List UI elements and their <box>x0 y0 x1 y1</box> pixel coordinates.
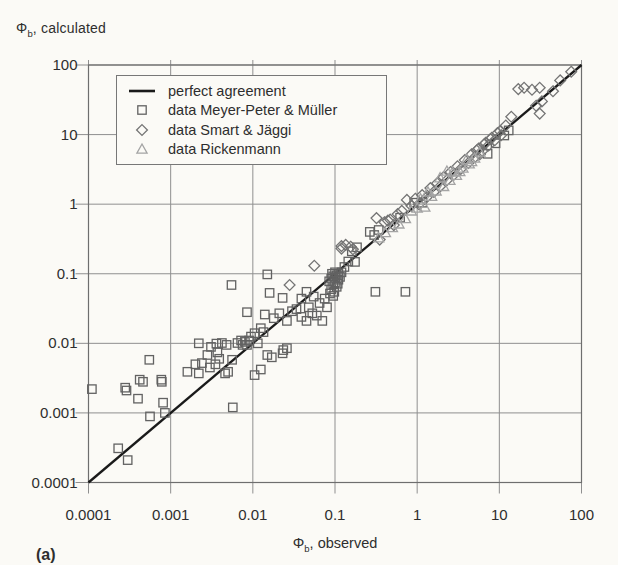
x-tick-label: 10 <box>491 506 508 523</box>
x-tick-label: 100 <box>569 506 594 523</box>
square-marker <box>195 369 203 377</box>
x-tick-label: 0.001 <box>152 506 190 523</box>
x-axis-title-text: , observed <box>310 535 378 551</box>
square-marker <box>305 303 313 311</box>
square-marker <box>278 294 286 302</box>
line-sample-icon <box>125 84 159 98</box>
x-tick-label: 1 <box>413 506 421 523</box>
square-marker <box>229 403 237 411</box>
diamond-marker <box>534 108 545 119</box>
x-tick-label: 0.1 <box>325 506 346 523</box>
square-marker <box>145 356 153 364</box>
legend-label: data Meyer-Peter & Müller <box>168 102 337 118</box>
y-tick-label: 0.0001 <box>32 474 78 491</box>
square-marker <box>261 310 269 318</box>
square-marker <box>318 317 326 325</box>
diamond-marker <box>137 124 148 135</box>
legend-item-meyer-peter-muller: data Meyer-Peter & Müller <box>125 101 386 120</box>
legend-item-rickenmann: data Rickenmann <box>125 140 386 159</box>
square-marker <box>136 376 144 384</box>
triangle-marker <box>137 144 147 153</box>
diamond-marker-icon <box>125 123 159 137</box>
legend-label: perfect agreement <box>168 83 286 99</box>
square-marker <box>257 365 265 373</box>
y-tick-label: 10 <box>61 126 78 143</box>
x-tick-label: 0.01 <box>238 506 267 523</box>
diamond-marker <box>284 280 295 291</box>
diamond-marker <box>309 260 320 271</box>
y-tick-label: 0.001 <box>40 404 78 421</box>
square-marker <box>250 371 258 379</box>
square-marker <box>183 368 191 376</box>
y-tick-label: 100 <box>52 56 77 73</box>
x-axis-title: Φb, observed <box>88 535 582 554</box>
legend-item-perfect-agreement: perfect agreement <box>125 81 386 100</box>
y-tick-label: 0.01 <box>48 334 77 351</box>
square-marker <box>265 289 273 297</box>
square-marker <box>270 314 278 322</box>
x-tick-label: 0.0001 <box>66 506 112 523</box>
square-marker-icon <box>125 103 159 117</box>
square-marker <box>401 288 409 296</box>
square-marker <box>243 308 251 316</box>
square-marker <box>159 399 167 407</box>
series-triangle <box>374 147 485 242</box>
square-marker <box>371 288 379 296</box>
y-tick-label: 1 <box>69 195 77 212</box>
square-marker <box>207 343 215 351</box>
square-marker <box>206 363 214 371</box>
square-marker <box>139 378 147 386</box>
legend-item-smart-jaggi: data Smart & Jäggi <box>125 120 386 139</box>
square-marker <box>263 270 271 278</box>
legend-box: perfect agreement data Meyer-Peter & Mül… <box>116 75 387 165</box>
square-marker <box>203 351 211 359</box>
square-marker <box>124 456 132 464</box>
square-marker <box>138 106 146 114</box>
triangle-marker-icon <box>125 142 159 156</box>
y-tick-label: 0.1 <box>57 265 78 282</box>
square-marker <box>114 444 122 452</box>
square-marker <box>157 376 165 384</box>
square-marker <box>227 281 235 289</box>
phi-symbol: Φ <box>293 535 305 551</box>
legend-label: data Smart & Jäggi <box>168 122 291 138</box>
legend-label: data Rickenmann <box>168 141 281 157</box>
panel-label: (a) <box>36 546 56 564</box>
square-marker <box>134 395 142 403</box>
figure-panel-a: Φb, calculated 0.00010.0010.010.11101000… <box>0 0 618 565</box>
square-marker <box>146 412 154 420</box>
square-marker <box>158 378 166 386</box>
